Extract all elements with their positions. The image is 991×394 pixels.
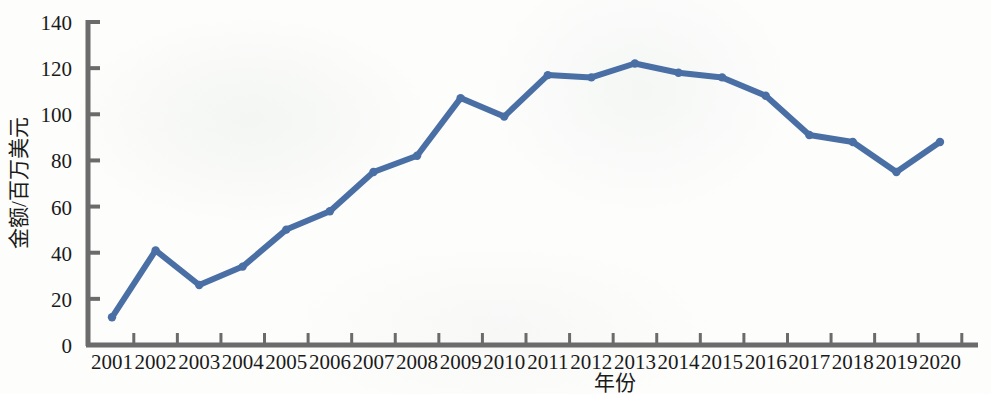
data-point-2017 — [805, 131, 813, 139]
data-point-2005 — [282, 225, 290, 233]
y-axis-tick-labels: 020406080100120140 — [41, 11, 73, 358]
x-tick-label-2019: 2019 — [875, 350, 917, 374]
x-tick-label-2016: 2016 — [745, 350, 787, 374]
y-tick-label-80: 80 — [51, 149, 72, 173]
x-axis-title: 年份 — [594, 371, 636, 394]
data-point-2019 — [892, 168, 900, 176]
data-point-2013 — [631, 59, 639, 67]
data-point-2018 — [849, 138, 857, 146]
x-tick-label-2015: 2015 — [701, 350, 743, 374]
y-tick-label-60: 60 — [51, 196, 72, 220]
x-tick-label-2002: 2002 — [135, 350, 177, 374]
data-point-2003 — [195, 281, 203, 289]
y-tick-label-100: 100 — [41, 103, 73, 127]
data-point-2009 — [456, 94, 464, 102]
x-tick-label-2017: 2017 — [788, 350, 830, 374]
x-tick-label-2018: 2018 — [832, 350, 874, 374]
x-tick-label-2005: 2005 — [265, 350, 307, 374]
x-tick-label-2009: 2009 — [440, 350, 482, 374]
y-tick-label-0: 0 — [62, 334, 73, 358]
data-point-2020 — [936, 138, 944, 146]
y-tick-label-40: 40 — [51, 242, 72, 266]
data-point-2011 — [544, 71, 552, 79]
data-point-2014 — [674, 69, 682, 77]
data-point-2008 — [413, 152, 421, 160]
y-axis-title: 金额/百万美元 — [7, 117, 31, 249]
x-tick-label-2004: 2004 — [222, 350, 265, 374]
x-tick-label-2001: 2001 — [91, 350, 133, 374]
data-point-2002 — [151, 246, 159, 254]
x-tick-label-2006: 2006 — [309, 350, 351, 374]
line-chart: 020406080100120140 200120022003200420052… — [0, 0, 991, 394]
data-point-2012 — [587, 73, 595, 81]
data-point-2016 — [762, 92, 770, 100]
x-tick-label-2003: 2003 — [178, 350, 220, 374]
data-series-line — [112, 64, 940, 318]
data-point-2010 — [500, 112, 508, 120]
x-tick-label-2011: 2011 — [527, 350, 568, 374]
data-point-2004 — [239, 262, 247, 270]
x-tick-label-2007: 2007 — [352, 350, 394, 374]
y-tick-label-20: 20 — [51, 288, 72, 312]
x-tick-label-2008: 2008 — [396, 350, 438, 374]
data-point-2001 — [108, 313, 116, 321]
x-tick-label-2020: 2020 — [919, 350, 961, 374]
y-tick-label-120: 120 — [41, 57, 73, 81]
data-point-2015 — [718, 73, 726, 81]
chart-page: 020406080100120140 200120022003200420052… — [0, 0, 991, 394]
x-axis-tick-labels: 2001200220032004200520062007200820092010… — [91, 350, 961, 374]
data-point-2007 — [369, 168, 377, 176]
y-tick-label-140: 140 — [41, 11, 73, 35]
data-point-2006 — [326, 207, 334, 215]
x-tick-label-2010: 2010 — [483, 350, 525, 374]
x-tick-label-2014: 2014 — [658, 350, 701, 374]
